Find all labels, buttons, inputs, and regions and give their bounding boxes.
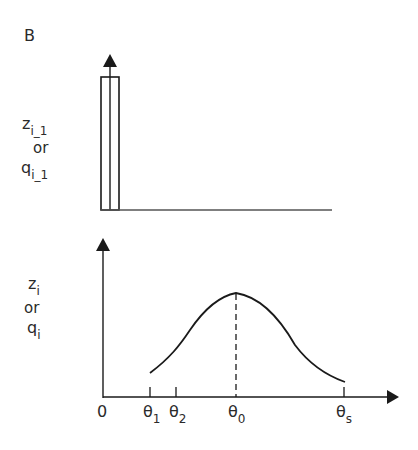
tick-label-theta2-sub: 2 <box>179 412 187 426</box>
bottom-ylabel-line1: zi <box>28 276 40 292</box>
bottom-ylabel-line2: or <box>24 301 39 316</box>
top-ylabel-line1: zi_1 <box>22 116 47 132</box>
tick-label-thetas-sub: s <box>346 412 352 426</box>
top-y-axis-arrow-icon <box>103 54 117 67</box>
top-ylabel-line3-sub: i_1 <box>31 168 48 182</box>
origin-label: 0 <box>97 404 107 420</box>
top-chart <box>101 54 332 210</box>
bottom-chart <box>96 238 399 404</box>
bottom-ylabel-line3: qi <box>27 320 41 336</box>
diagram-canvas <box>0 0 418 450</box>
tick-label-theta0: θ0 <box>228 404 245 420</box>
tick-label-theta2: θ2 <box>169 404 186 420</box>
tick-label-theta2-base: θ <box>169 402 179 421</box>
tick-label-theta0-base: θ <box>228 402 238 421</box>
tick-label-theta1: θ1 <box>143 404 160 420</box>
bottom-x-axis-arrow-icon <box>387 390 399 404</box>
tick-label-theta0-sub: 0 <box>238 412 246 426</box>
bottom-ylabel-line3-base: q <box>27 318 37 337</box>
top-ylabel-line2: or <box>33 141 48 156</box>
top-ylabel-line1-sub: i_1 <box>30 124 47 138</box>
tick-label-thetas: θs <box>336 404 352 420</box>
tick-label-theta1-base: θ <box>143 402 153 421</box>
tick-label-thetas-base: θ <box>336 402 346 421</box>
bottom-y-axis-arrow-icon <box>96 238 110 251</box>
panel-label: B <box>24 28 35 44</box>
bottom-ylabel-line3-sub: i <box>37 328 40 342</box>
tick-label-theta1-sub: 1 <box>153 412 161 426</box>
bottom-ylabel-line1-sub: i <box>36 284 39 298</box>
bell-curve <box>150 293 345 382</box>
top-ylabel-line3-base: q <box>21 158 31 177</box>
top-ylabel-line3: qi_1 <box>21 160 48 176</box>
